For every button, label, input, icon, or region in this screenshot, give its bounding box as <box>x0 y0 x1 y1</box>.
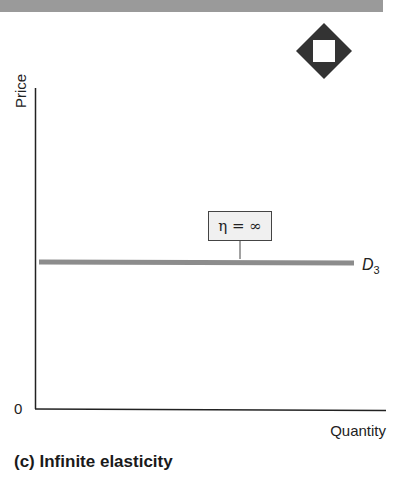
series-label-d3: D3 <box>362 256 380 276</box>
x-axis <box>35 409 386 411</box>
x-axis-label: Quantity <box>330 422 386 439</box>
y-axis-label: Price <box>12 74 29 108</box>
chart: Price 0 Quantity D3 η = ∞ <box>0 0 403 480</box>
demand-curve-d3 <box>39 262 354 263</box>
annotation-text: η = ∞ <box>218 217 262 235</box>
chart-caption: (c) Infinite elasticity <box>14 452 173 472</box>
origin-label: 0 <box>14 400 22 417</box>
